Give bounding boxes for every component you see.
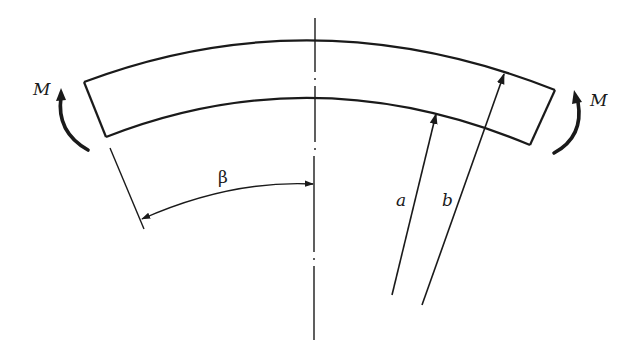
radius-b-label: b xyxy=(442,190,453,210)
moment-right-arrow-icon xyxy=(554,102,579,153)
radial-extension-line xyxy=(110,148,144,229)
centerline xyxy=(314,18,315,340)
moment-right: M xyxy=(554,90,608,153)
curved-beam-diagram: β a b M M xyxy=(0,0,635,354)
beam-left-end xyxy=(84,82,106,137)
beam-inner-edge xyxy=(106,98,530,145)
moment-right-label: M xyxy=(589,90,608,110)
radius-a-label: a xyxy=(396,190,406,210)
beam-right-end xyxy=(530,90,555,145)
moment-left-label: M xyxy=(32,79,51,99)
angle-beta-arc xyxy=(142,184,313,219)
moment-left: M xyxy=(32,79,88,150)
moment-left-arrow-icon xyxy=(60,97,88,150)
angle-beta-label: β xyxy=(218,167,228,187)
beam-outer-edge xyxy=(84,40,555,90)
radius-b-arrow xyxy=(422,74,504,305)
